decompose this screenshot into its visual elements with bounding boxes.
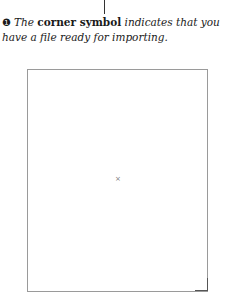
caption-text-before: The xyxy=(14,16,37,28)
step-number: ❶ xyxy=(2,17,11,28)
corner-symbol-icon xyxy=(195,278,208,291)
callout-pointer-line xyxy=(104,0,105,14)
caption-bold-term: corner symbol xyxy=(37,16,121,28)
center-marker-icon: × xyxy=(115,176,121,183)
figure-caption: ❶The corner symbol indicates that you ha… xyxy=(2,15,228,44)
